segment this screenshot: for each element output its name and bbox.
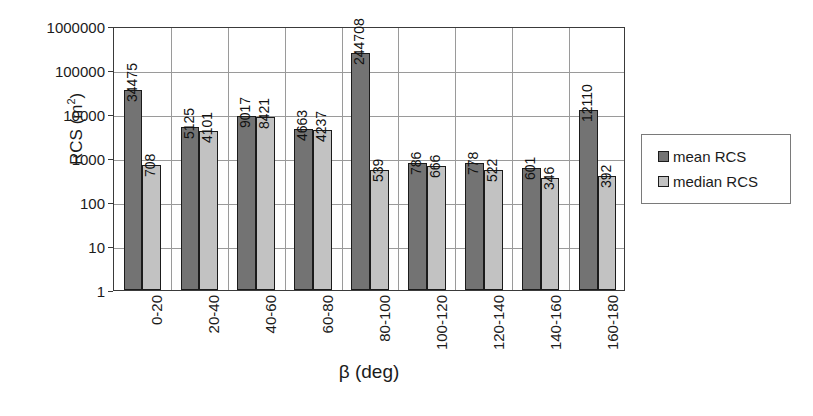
legend-swatch-icon xyxy=(658,176,669,187)
bar-mean xyxy=(579,110,598,290)
bar-mean xyxy=(124,90,143,290)
bar-mean xyxy=(181,127,200,290)
bar-value-label: 12110 xyxy=(580,84,594,122)
bar-median xyxy=(484,170,503,290)
bar-median xyxy=(541,178,560,290)
gridline-vertical xyxy=(569,28,570,290)
y-axis-tick-label: 1000000 xyxy=(47,20,105,35)
bar-value-label: 666 xyxy=(428,154,442,177)
bar-median xyxy=(313,130,332,290)
y-axis-tick-label: 1 xyxy=(97,284,105,299)
bar-value-label: 392 xyxy=(599,165,613,188)
gridline-vertical xyxy=(285,28,286,290)
bar-value-label: 5125 xyxy=(182,108,196,139)
bar-median xyxy=(199,131,218,290)
bar-value-label: 346 xyxy=(542,167,556,190)
gridline-vertical xyxy=(342,28,343,290)
y-axis-title-exponent: 2 xyxy=(65,98,77,104)
bar-value-label: 708 xyxy=(143,153,157,176)
bar-value-label: 8421 xyxy=(257,98,271,129)
y-axis-tick-label: 10 xyxy=(88,240,105,255)
bar-value-label: 4101 xyxy=(200,112,214,143)
bar-median xyxy=(256,117,275,290)
legend-item-label: median RCS xyxy=(673,173,758,190)
plot-area: 3447570851254101901784214663423724470853… xyxy=(113,27,625,291)
x-axis-tick-label: 140-160 xyxy=(548,295,563,350)
y-axis-tick-mark xyxy=(108,291,113,292)
bar-mean xyxy=(237,116,256,290)
x-axis-tick-label: 40-60 xyxy=(263,295,278,333)
y-axis-title: RCS (m2) xyxy=(65,49,87,209)
bar-median xyxy=(142,165,161,290)
x-axis-tick-label: 160-180 xyxy=(605,295,620,350)
bar-median xyxy=(370,170,389,290)
bar-value-label: 778 xyxy=(466,151,480,174)
bar-value-label: 786 xyxy=(409,151,423,174)
bar-value-label: 522 xyxy=(485,159,499,182)
x-axis-tick-label: 80-100 xyxy=(377,295,392,342)
bar-value-label: 9017 xyxy=(238,97,252,128)
bar-value-label: 4663 xyxy=(295,109,309,140)
bar-mean xyxy=(522,168,541,290)
gridline-vertical xyxy=(512,28,513,290)
bar-mean xyxy=(294,129,313,290)
bar-value-label: 539 xyxy=(371,158,385,181)
gridline-vertical xyxy=(228,28,229,290)
y-axis: 1000000100000100001000100101 xyxy=(0,27,113,291)
bar-median xyxy=(598,176,617,290)
x-axis-tick-label: 60-80 xyxy=(320,295,335,333)
chart-figure: 1000000100000100001000100101 RCS (m2) 34… xyxy=(0,0,813,416)
bar-value-label: 244708 xyxy=(352,18,366,65)
bar-value-label: 34475 xyxy=(125,63,139,102)
gridline-vertical xyxy=(398,28,399,290)
legend-swatch-icon xyxy=(658,151,669,162)
x-axis-tick-label: 100-120 xyxy=(434,295,449,350)
y-axis-title-tail: ) xyxy=(67,93,86,99)
bar-mean xyxy=(465,163,484,290)
legend-item[interactable]: median RCS xyxy=(642,169,790,194)
x-axis-tick-label: 120-140 xyxy=(491,295,506,350)
gridline-vertical xyxy=(455,28,456,290)
bar-value-label: 601 xyxy=(523,156,537,179)
y-axis-title-base: RCS (m xyxy=(67,105,86,165)
legend-item[interactable]: mean RCS xyxy=(642,144,790,169)
x-axis-tick-label: 20-40 xyxy=(206,295,221,333)
legend-item-label: mean RCS xyxy=(673,148,746,165)
bar-mean xyxy=(408,163,427,290)
gridline-vertical xyxy=(171,28,172,290)
x-axis-title: β (deg) xyxy=(113,361,625,383)
bar-median xyxy=(427,166,446,290)
chart-legend: mean RCSmedian RCS xyxy=(641,134,791,204)
bar-mean xyxy=(351,53,370,290)
x-axis-tick-label: 0-20 xyxy=(149,295,164,325)
bar-value-label: 4237 xyxy=(314,111,328,142)
